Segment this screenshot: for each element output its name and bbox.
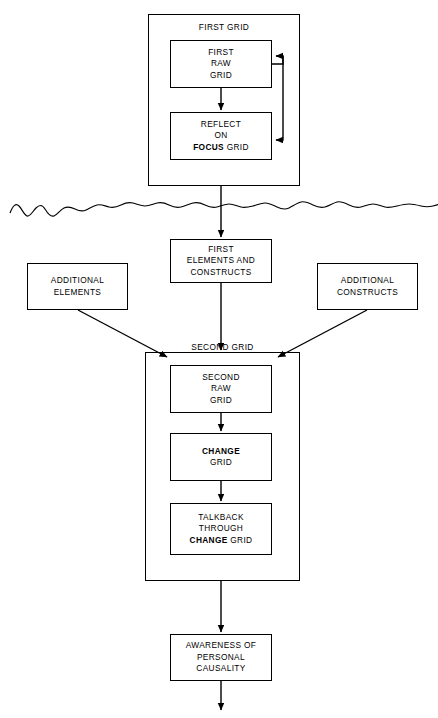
- node-change-grid-label: CHANGEGRID: [200, 446, 242, 469]
- node-second-raw-grid-label: SECONDRAWGRID: [200, 372, 242, 407]
- node-additional-elements: ADDITIONALELEMENTS: [27, 263, 128, 310]
- node-reflect-on-focus-grid-label: REFLECTONFOCUS GRID: [191, 119, 251, 154]
- node-first-raw-grid-label: FIRSTRAWGRID: [206, 47, 236, 82]
- node-reflect-on-focus-grid: REFLECTONFOCUS GRID: [170, 112, 272, 160]
- node-first-elements-and-constructs-label: FIRSTELEMENTS ANDCONSTRUCTS: [185, 244, 257, 279]
- flowchart-diagram: FIRST GRID SECOND GRID FIRSTRAWGRID REFL…: [0, 0, 438, 718]
- node-additional-constructs: ADDITIONALCONSTRUCTS: [317, 263, 418, 310]
- node-change-grid: CHANGEGRID: [170, 433, 272, 481]
- node-additional-elements-label: ADDITIONALELEMENTS: [49, 275, 106, 298]
- node-awareness-of-personal-causality: AWARENESS OFPERSONALCAUSALITY: [170, 634, 272, 681]
- node-talkback-through-change-grid: TALKBACKTHROUGHCHANGE GRID: [170, 503, 272, 555]
- node-talkback-through-change-grid-label: TALKBACKTHROUGHCHANGE GRID: [188, 512, 255, 547]
- wavy-break-line: [10, 202, 438, 216]
- node-additional-constructs-label: ADDITIONALCONSTRUCTS: [335, 275, 400, 298]
- node-awareness-of-personal-causality-label: AWARENESS OFPERSONALCAUSALITY: [184, 640, 258, 675]
- node-first-elements-and-constructs: FIRSTELEMENTS ANDCONSTRUCTS: [170, 239, 272, 283]
- container-first-grid-label: FIRST GRID: [149, 22, 299, 33]
- node-second-raw-grid: SECONDRAWGRID: [170, 365, 272, 413]
- node-first-raw-grid: FIRSTRAWGRID: [170, 40, 272, 88]
- container-second-grid-label: SECOND GRID: [146, 342, 299, 353]
